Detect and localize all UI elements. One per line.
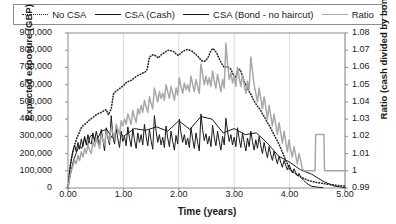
plot-border [68,33,345,188]
series-line-ratio [68,43,345,188]
series-line-csa-bond-no-haircut [68,117,345,188]
plot-area [0,0,396,224]
chart-container: No CSA CSA (Cash) CSA (Bond - no haircut… [0,0,396,224]
series-line-csa-cash [68,114,323,188]
